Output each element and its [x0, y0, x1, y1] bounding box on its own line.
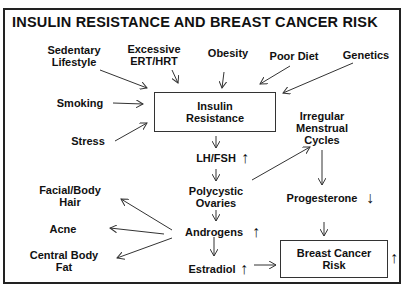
irregular-cycles-label: Irregular Menstrual Cycles — [296, 110, 348, 146]
estradiol-up-icon: ↑ — [240, 261, 248, 277]
lh-fsh-label: LH/FSH — [196, 152, 236, 164]
arrow-genetics — [283, 63, 353, 93]
lh-fsh-up-icon: ↑ — [241, 150, 249, 166]
arrow-ert — [172, 70, 178, 83]
arrow-androgens-fat — [117, 238, 172, 258]
factor-obesity: Obesity — [208, 47, 248, 59]
breast-cancer-risk-box: Breast Cancer Risk — [280, 240, 388, 278]
breast-cancer-up-icon: ↑ — [390, 250, 398, 266]
arrow-poor-diet — [260, 66, 290, 84]
androgens-up-icon: ↑ — [252, 224, 260, 240]
arrow-smoking — [113, 103, 143, 104]
factor-poor-diet: Poor Diet — [270, 50, 319, 62]
acne-label: Acne — [50, 223, 77, 235]
androgens-label: Androgens — [185, 226, 243, 238]
insulin-resistance-box: Insulin Resistance — [154, 92, 276, 132]
arrow-obesity — [222, 72, 224, 88]
estradiol-label: Estradiol — [188, 263, 235, 275]
arrow-stress — [115, 123, 147, 141]
factor-genetics: Genetics — [343, 49, 389, 61]
progesterone-down-icon: ↓ — [366, 190, 374, 206]
factor-ert: Excessive ERT/HRT — [127, 43, 180, 67]
central-fat-label: Central Body Fat — [30, 249, 98, 273]
progesterone-label: Progesterone — [287, 192, 358, 204]
arrow-pco-cycles — [252, 147, 310, 180]
arrow-androgens-hair — [121, 199, 172, 230]
polycystic-ovaries-label: Polycystic Ovaries — [189, 185, 243, 209]
factor-stress: Stress — [71, 135, 105, 147]
arrow-androgens-acne — [110, 228, 164, 234]
arrow-sedentary — [100, 70, 147, 88]
factor-sedentary: Sedentary Lifestyle — [47, 44, 100, 68]
factor-smoking: Smoking — [57, 97, 103, 109]
facial-hair-label: Facial/Body Hair — [39, 184, 101, 208]
